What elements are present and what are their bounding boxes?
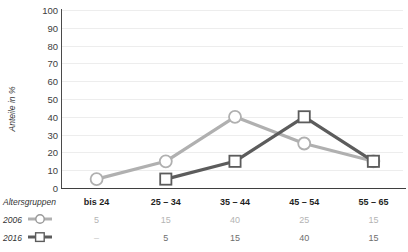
square-legend-marker: [27, 231, 53, 245]
table-row: 2016 – 5 15 40 15: [0, 229, 408, 247]
y-tick-90: 90: [6, 24, 58, 34]
value-2006-2: 40: [200, 215, 269, 225]
x-axis-title: Altersgruppen: [0, 197, 62, 207]
y-tick-100: 100: [6, 6, 58, 16]
value-2016-1: 5: [131, 233, 200, 243]
data-point-2006-2: [229, 111, 241, 123]
series-plot: [62, 10, 403, 188]
y-tick-20: 20: [6, 148, 58, 158]
series-line-2016: [166, 117, 374, 179]
circle-legend-marker: [27, 213, 53, 227]
category-header-2: 35 – 44: [200, 197, 269, 207]
data-point-2016-1: [160, 174, 171, 185]
series-markers-2006: [91, 111, 380, 185]
legend-label-2016: 2016: [3, 233, 22, 243]
y-axis-title: Anteile in %: [7, 74, 17, 144]
data-point-2016-2: [229, 156, 240, 167]
data-point-2016-3: [299, 111, 310, 122]
category-header-3: 45 – 54: [270, 197, 339, 207]
value-2016-4: 15: [339, 233, 408, 243]
plot-area: [62, 10, 403, 188]
y-tick-70: 70: [6, 59, 58, 69]
value-2006-4: 15: [339, 215, 408, 225]
value-2006-1: 15: [131, 215, 200, 225]
data-point-2006-3: [298, 138, 310, 150]
data-point-2006-0: [91, 173, 103, 185]
y-tick-10: 10: [6, 166, 58, 176]
value-2016-0: –: [62, 233, 131, 243]
age-group-line-chart: 100 90 80 70 60 50 40 30 20 10 0 Anteile…: [0, 0, 408, 252]
value-2006-3: 25: [270, 215, 339, 225]
table-row: 2006 5 15 40 25 15: [0, 211, 408, 229]
data-table: Altersgruppen bis 24 25 – 34 35 – 44 45 …: [0, 193, 408, 247]
x-axis-line: [61, 188, 406, 189]
legend-label-2006: 2006: [3, 215, 22, 225]
legend-item-2016[interactable]: 2016: [0, 231, 62, 245]
data-point-2016-4: [368, 156, 379, 167]
value-2016-3: 40: [270, 233, 339, 243]
category-header-0: bis 24: [62, 197, 131, 207]
value-2006-0: 5: [62, 215, 131, 225]
category-header-4: 55 – 65: [339, 197, 408, 207]
legend-item-2006[interactable]: 2006: [0, 213, 62, 227]
data-point-2006-1: [160, 155, 172, 167]
y-tick-80: 80: [6, 42, 58, 52]
table-header-row: Altersgruppen bis 24 25 – 34 35 – 44 45 …: [0, 193, 408, 211]
value-2016-2: 15: [200, 233, 269, 243]
series-line-2006: [97, 117, 374, 179]
category-header-1: 25 – 34: [131, 197, 200, 207]
